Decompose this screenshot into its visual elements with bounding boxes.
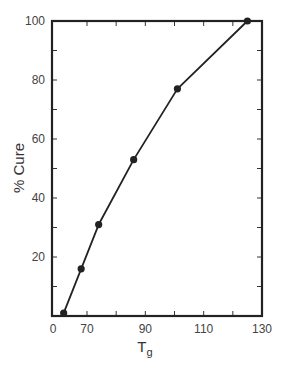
data-point-marker	[60, 309, 67, 316]
x-tick-label: 0	[50, 322, 57, 336]
tick-marks	[52, 21, 262, 316]
y-tick-label: 80	[32, 73, 46, 87]
x-tick-label: 110	[194, 322, 213, 336]
y-tick-label: 100	[25, 14, 45, 28]
chart: 0709011013020406080100 % Cure Tg	[0, 0, 283, 374]
y-tick-label: 60	[32, 132, 46, 146]
plot-frame	[52, 21, 262, 316]
tick-labels: 0709011013020406080100	[25, 14, 272, 336]
data-point-marker	[78, 265, 85, 272]
x-axis-label: Tg	[137, 338, 152, 358]
data-point-marker	[130, 156, 137, 163]
data-line	[64, 21, 248, 313]
data-markers	[60, 17, 251, 316]
x-tick-label: 90	[139, 322, 153, 336]
y-tick-label: 40	[32, 191, 46, 205]
x-tick-label: 130	[252, 322, 272, 336]
y-axis-label: % Cure	[10, 143, 27, 193]
data-point-marker	[244, 17, 251, 24]
x-tick-label: 70	[80, 322, 94, 336]
data-point-marker	[95, 221, 102, 228]
data-point-marker	[174, 85, 181, 92]
y-tick-label: 20	[32, 250, 46, 264]
